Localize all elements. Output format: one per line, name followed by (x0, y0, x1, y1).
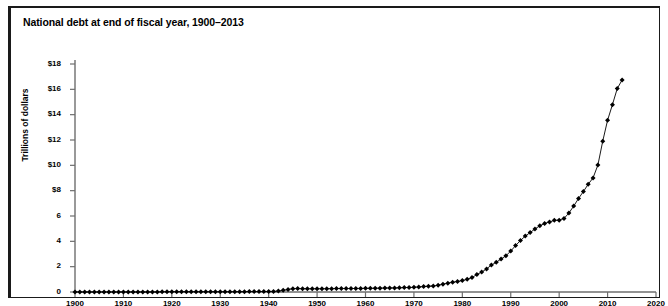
series-marker (319, 286, 324, 291)
series-marker (145, 289, 150, 294)
series-marker (416, 284, 421, 289)
series-marker (373, 286, 378, 291)
y-axis-tick-text: 4 (31, 237, 61, 245)
y-axis-tick-text: $14 (31, 110, 61, 118)
series-marker (227, 289, 232, 294)
series-marker (174, 289, 179, 294)
series-marker (368, 286, 373, 291)
series-marker (286, 287, 291, 292)
series-marker (310, 286, 315, 291)
series-marker (339, 286, 344, 291)
series-marker (353, 286, 358, 291)
series-marker (358, 286, 363, 291)
x-axis-tick-label: 1940 (249, 300, 289, 306)
series-marker (378, 286, 383, 291)
y-axis-tick-label: $14 (27, 110, 61, 120)
series-marker (218, 289, 223, 294)
y-axis-tick-text: 6 (31, 212, 61, 220)
plot-area: Trillions of dollars 0246$8$10$12$14$16$… (11, 8, 663, 300)
series-marker (344, 286, 349, 291)
series-marker (387, 285, 392, 290)
x-axis-tick-label: 2000 (539, 300, 579, 306)
series-marker (135, 289, 140, 294)
series-marker (164, 289, 169, 294)
x-axis-tick-label: 1950 (297, 300, 337, 306)
series-marker (102, 289, 107, 294)
y-axis-tick-text: $18 (31, 60, 61, 68)
series-marker (334, 286, 339, 291)
y-axis-tick-label: 2 (27, 262, 61, 272)
series-marker (82, 289, 87, 294)
series-marker (126, 289, 131, 294)
series-marker (474, 272, 479, 277)
series-marker (402, 285, 407, 290)
series-marker (363, 286, 368, 291)
series-marker (436, 283, 441, 288)
y-axis-tick-label: $16 (27, 85, 61, 95)
series-marker (198, 289, 203, 294)
series-marker (552, 218, 557, 223)
series-marker (305, 286, 310, 291)
series-marker (431, 283, 436, 288)
series-marker (256, 289, 261, 294)
series-marker (382, 286, 387, 291)
series-marker (397, 285, 402, 290)
series-marker (557, 218, 562, 223)
series-marker (455, 279, 460, 284)
series-marker (213, 289, 218, 294)
series-marker (300, 286, 305, 291)
series-marker (106, 289, 111, 294)
series-marker (324, 286, 329, 291)
series-marker (615, 86, 620, 91)
series-marker (116, 289, 121, 294)
series-marker (537, 223, 542, 228)
series-marker (179, 289, 184, 294)
x-axis-tick-label: 1990 (491, 300, 531, 306)
x-axis-tick-label: 2010 (588, 300, 628, 306)
y-axis-tick-text: $10 (31, 161, 61, 169)
series-marker (150, 289, 155, 294)
y-axis-tick-label: $18 (27, 60, 61, 70)
series-marker (97, 289, 102, 294)
series-marker (73, 289, 78, 294)
y-axis-tick-label: $10 (27, 161, 61, 171)
series-marker (407, 285, 412, 290)
y-axis-tick-text: $12 (31, 136, 61, 144)
series-marker (329, 286, 334, 291)
x-axis-tick-label: 1900 (55, 300, 95, 306)
series-marker (140, 289, 145, 294)
y-axis-tick-label: 6 (27, 212, 61, 222)
series-marker (620, 77, 625, 82)
y-axis-tick-text: 2 (31, 262, 61, 270)
x-axis-tick-label: 1930 (200, 300, 240, 306)
series-marker (169, 289, 174, 294)
x-axis-tick-label: 1910 (103, 300, 143, 306)
series-marker (203, 289, 208, 294)
series-marker (252, 289, 257, 294)
series-marker (547, 220, 552, 225)
series-marker (77, 289, 82, 294)
chart-canvas (11, 8, 663, 300)
series-marker (479, 270, 484, 275)
y-axis-tick-text: $8 (31, 186, 61, 194)
series-marker (184, 289, 189, 294)
series-marker (595, 163, 600, 168)
series-marker (261, 289, 266, 294)
y-axis-tick-text: 0 (31, 288, 61, 296)
series-marker (276, 289, 281, 294)
y-axis-tick-text: $16 (31, 85, 61, 93)
x-axis-tick-label: 1960 (346, 300, 386, 306)
series-marker (160, 289, 165, 294)
series-marker (445, 281, 450, 286)
x-axis-tick-label: 2020 (636, 300, 668, 306)
series-marker (499, 257, 504, 262)
series-marker (155, 289, 160, 294)
series-marker (315, 286, 320, 291)
chart-figure: National debt at end of fiscal year, 190… (8, 6, 660, 298)
series-marker (605, 118, 610, 123)
series-marker (237, 289, 242, 294)
series-marker (223, 289, 228, 294)
series-marker (426, 284, 431, 289)
series-marker (131, 289, 136, 294)
series-marker (610, 102, 615, 107)
